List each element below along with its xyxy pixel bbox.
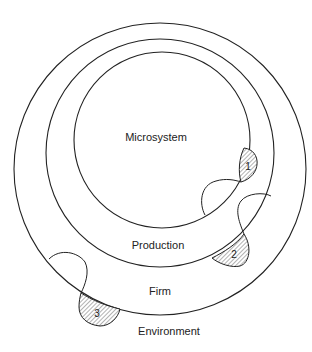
firm-boundary-circle xyxy=(14,23,306,315)
microsystem-label: Microsystem xyxy=(125,131,187,143)
interface-3-open-lobe xyxy=(49,252,87,293)
interface-3-number: 3 xyxy=(94,308,100,319)
production-boundary-circle xyxy=(46,39,274,267)
firm-label: Firm xyxy=(149,285,171,297)
interface-2-open-lobe xyxy=(238,194,271,234)
environment-label: Environment xyxy=(138,325,200,337)
interface-1-number: 1 xyxy=(245,161,251,172)
production-label: Production xyxy=(132,239,185,251)
nested-systems-diagram: 1 2 3 Microsystem Production Firm Enviro… xyxy=(0,0,312,352)
interface-3: 3 xyxy=(49,252,120,326)
interface-1: 1 xyxy=(202,148,258,215)
interface-2-number: 2 xyxy=(231,249,237,260)
interface-1-open-lobe xyxy=(202,179,241,215)
